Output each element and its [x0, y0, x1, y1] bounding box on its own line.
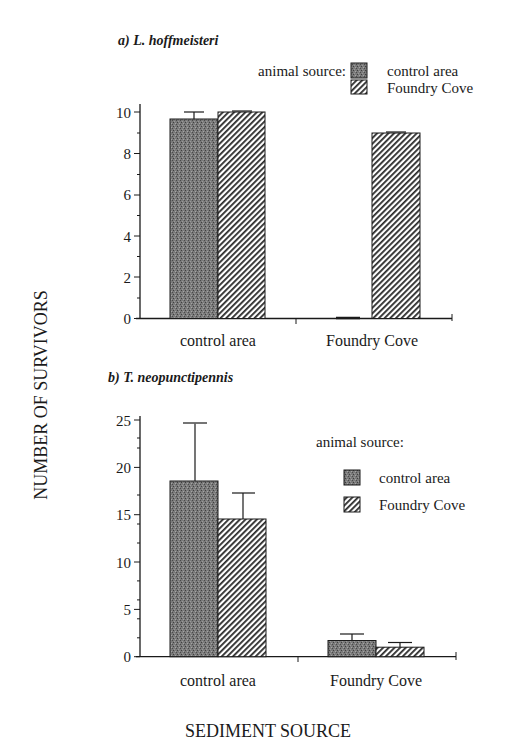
panel-a-legend: animal source: control area Foundry Cove: [258, 63, 473, 96]
legend-swatch-foundry-cove: [344, 497, 360, 512]
y-tick-label: 10: [116, 555, 131, 571]
x-axis-label: SEDIMENT SOURCE: [185, 721, 351, 741]
bar-b-foundry-control: [328, 641, 376, 657]
bar-b-control-control: [170, 481, 218, 657]
bar-b-foundry-foundry: [376, 647, 424, 657]
y-tick-label: 6: [124, 187, 132, 203]
legend-title: animal source:: [258, 63, 346, 79]
y-tick-label: 2: [124, 270, 132, 286]
x-category-label: Foundry Cove: [326, 332, 418, 350]
y-axis-label: NUMBER OF SURVIVORS: [31, 290, 51, 500]
y-tick-label: 4: [124, 229, 132, 245]
x-category-label: Foundry Cove: [330, 672, 422, 690]
x-category-label: control area: [180, 672, 256, 689]
x-category-label: control area: [180, 332, 256, 349]
bar-b-control-foundry: [218, 519, 266, 657]
panel-a-y-ticks: [134, 112, 140, 319]
legend-swatch-control-area: [344, 470, 360, 485]
legend-label-foundry-cove: Foundry Cove: [387, 80, 474, 96]
y-tick-label: 8: [124, 146, 132, 162]
panel-b: b) T. neopunctipennis animal source: con…: [108, 370, 466, 690]
panel-b-y-ticks: [134, 420, 140, 657]
y-tick-label: 20: [116, 460, 131, 476]
legend-label-control-area: control area: [387, 63, 459, 79]
bar-a-control-control: [170, 119, 218, 319]
legend-swatch-foundry-cove: [351, 80, 367, 94]
panel-a-title: a) L. hoffmeisteri: [118, 33, 219, 49]
legend-label-foundry-cove: Foundry Cove: [379, 497, 466, 513]
panel-b-title: b) T. neopunctipennis: [108, 370, 234, 386]
legend-swatch-control-area: [351, 63, 367, 78]
survivors-figure: NUMBER OF SURVIVORS SEDIMENT SOURCE a) L…: [0, 0, 516, 745]
bar-a-control-foundry: [218, 112, 265, 319]
y-tick-label: 0: [124, 649, 132, 665]
y-tick-label: 15: [116, 507, 131, 523]
y-tick-label: 0: [124, 311, 132, 327]
legend-label-control-area: control area: [379, 470, 451, 486]
y-tick-label: 10: [116, 105, 131, 121]
bar-a-foundry-foundry: [372, 133, 420, 319]
panel-a-bars: [170, 111, 420, 319]
y-tick-label: 25: [116, 413, 131, 429]
panel-b-bars: [170, 423, 424, 657]
panel-b-legend: animal source: control area Foundry Cove: [316, 434, 466, 513]
panel-a: a) L. hoffmeisteri animal source: contro…: [116, 33, 474, 350]
y-tick-label: 5: [124, 602, 132, 618]
legend-title: animal source:: [316, 434, 404, 450]
